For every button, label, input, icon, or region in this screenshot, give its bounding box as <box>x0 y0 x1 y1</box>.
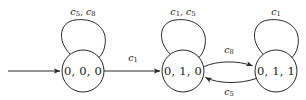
state-label-0: 0, 0, 0 <box>64 64 102 78</box>
t1-sub: 8 <box>230 48 234 56</box>
transition-s2-to-s1[interactable] <box>206 78 257 83</box>
transition-label-s2-s1: c5 <box>224 86 234 98</box>
state-machine-canvas: 0, 0, 0 0, 1, 0 0, 1, 1 c5, c8 c1, c5 c1… <box>0 0 306 100</box>
loop2-sub1: 1 <box>277 10 281 18</box>
transition-s1-to-s2[interactable] <box>204 62 252 67</box>
transition-line-s1-s2 <box>204 62 252 67</box>
self-loop-label-1: c1, c5 <box>170 6 195 18</box>
state-machine-figure: 0, 0, 0 0, 1, 0 0, 1, 1 c5, c8 c1, c5 c1… <box>0 0 306 100</box>
state-node-0[interactable]: 0, 0, 0 <box>62 50 104 92</box>
transition-line-s2-s1 <box>206 78 257 83</box>
transition-label-s1-s2: c8 <box>224 44 234 56</box>
state-label-1: 0, 1, 0 <box>164 64 202 78</box>
loop1-sub2: 5 <box>191 10 195 18</box>
t2-sub: 5 <box>230 90 234 98</box>
self-loop-label-2: c1 <box>271 6 281 18</box>
loop0-sub2: 8 <box>91 10 95 18</box>
self-loop-label-0: c5, c8 <box>70 6 95 18</box>
transition-label-s0-s1: c1 <box>128 52 138 64</box>
state-node-1[interactable]: 0, 1, 0 <box>162 50 204 92</box>
state-label-2: 0, 1, 1 <box>257 64 295 78</box>
t0-sub: 1 <box>134 56 138 64</box>
state-node-2[interactable]: 0, 1, 1 <box>255 50 297 92</box>
